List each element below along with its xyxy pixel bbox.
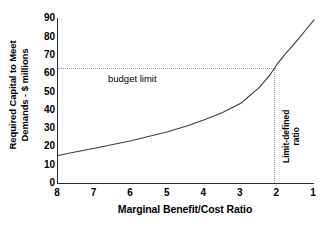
limit-defined-ratio-label-line2: ratio [292,110,302,163]
x-tick-label: 6 [122,188,138,198]
x-tick-label: 1 [305,188,321,198]
y-tick-label: 70 [36,50,55,60]
x-tick-label: 2 [268,188,284,198]
y-tick-label: 20 [36,141,55,151]
y-tick-label: 80 [36,32,55,42]
y-tick-label: 90 [36,13,55,23]
x-axis-title: Marginal Benefit/Cost Ratio [57,203,313,215]
x-tick-label: 8 [49,188,65,198]
y-tick-label: 30 [36,123,55,133]
y-tick-label: 40 [36,105,55,115]
budget-limit-label: budget limit [108,73,157,84]
plot-area: budget limit Limit-defined ratio [57,18,314,184]
required-capital-curve [58,18,314,183]
x-tick-label: 5 [159,188,175,198]
x-tick-label: 4 [195,188,211,198]
y-tick-label: 60 [36,68,55,78]
curve-polyline [58,20,314,156]
y-tick-label: 10 [36,160,55,170]
x-tick-label: 7 [86,188,102,198]
y-tick-label: 0 [36,178,55,188]
plot-inner: budget limit Limit-defined ratio [58,18,314,183]
y-axis-title-line2: Demands - $ millions [19,41,31,150]
x-tick-label: 3 [232,188,248,198]
y-axis-title-text: Required Capital to Meet Demands - $ mil… [7,41,31,150]
chart-figure: Required Capital to Meet Demands - $ mil… [0,0,324,232]
limit-defined-ratio-label: Limit-defined ratio [282,110,301,163]
y-tick-label: 50 [36,87,55,97]
y-axis-title: Required Capital to Meet Demands - $ mil… [0,0,38,190]
y-axis-title-line1: Required Capital to Meet [7,41,19,150]
